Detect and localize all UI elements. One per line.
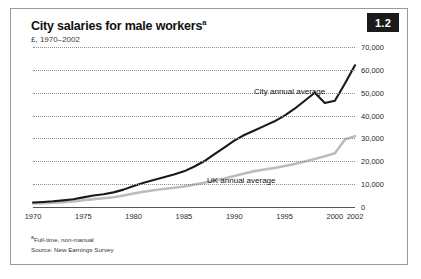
x-axis-tick-label: 1975 (75, 212, 92, 221)
y-axis-tick-label: 0 (361, 203, 405, 212)
x-axis-tick-label: 1995 (276, 212, 293, 221)
y-axis-tick-label: 20,000 (361, 157, 405, 166)
gridline (33, 184, 355, 185)
y-axis-tick-label: 30,000 (361, 134, 405, 143)
footnote-text: Full-time, non-manual (34, 236, 94, 243)
chart-svg (33, 47, 355, 207)
gridline (33, 161, 355, 162)
figure-container: City salaries for male workersa £, 1970–… (10, 8, 408, 265)
x-axis-tick-label: 1990 (226, 212, 243, 221)
x-axis-tick-label: 1980 (125, 212, 142, 221)
plot-canvas (33, 47, 355, 207)
series-label-city: City annual average (254, 87, 325, 96)
x-axis-tick-label: 2002 (347, 212, 364, 221)
x-axis-tick-label: 1970 (25, 212, 42, 221)
page-title: City salaries for male workersa (31, 18, 206, 33)
title-superscript: a (202, 18, 206, 27)
x-axis-tick-label: 1985 (176, 212, 193, 221)
figure-number-badge: 1.2 (367, 13, 399, 32)
series-label-uk: UK annual average (207, 176, 276, 185)
y-axis-tick-label: 70,000 (361, 43, 405, 52)
y-axis-tick-label: 60,000 (361, 65, 405, 74)
y-axis-tick-label: 40,000 (361, 111, 405, 120)
title-text: City salaries for male workers (31, 19, 202, 33)
figure-subtitle: £, 1970–2002 (31, 35, 80, 44)
x-axis-tick-label: 2000 (327, 212, 344, 221)
gridline (33, 138, 355, 139)
gridline (33, 47, 355, 48)
y-axis-tick-label: 50,000 (361, 88, 405, 97)
gridline (33, 116, 355, 117)
series-line-uk (33, 136, 355, 203)
x-axis-baseline (33, 207, 355, 208)
source-line: Source: New Earnings Survey (31, 245, 114, 255)
gridline (33, 70, 355, 71)
footnote-definition: aFull-time, non-manual (31, 233, 114, 245)
y-axis-tick-label: 10,000 (361, 180, 405, 189)
series-line-city (33, 65, 355, 202)
footnotes: aFull-time, non-manual Source: New Earni… (31, 233, 114, 254)
